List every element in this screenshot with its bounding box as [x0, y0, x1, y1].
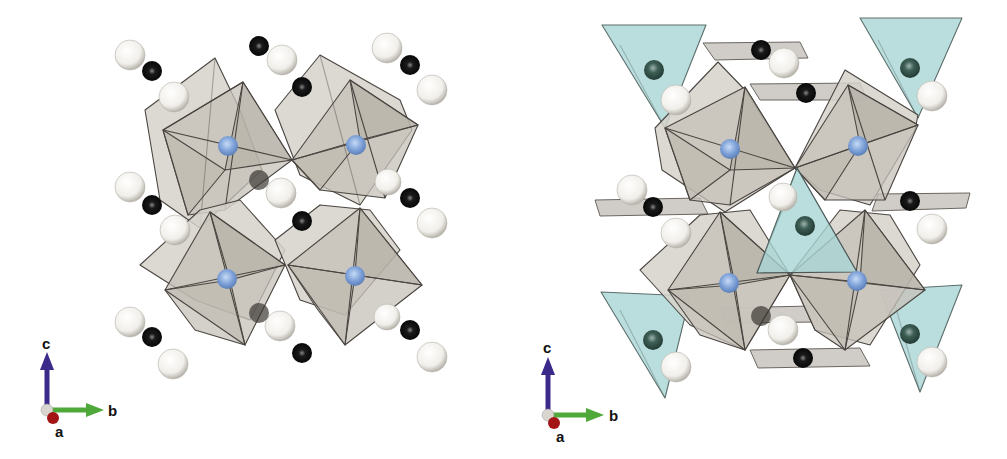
white-atom [917, 214, 947, 244]
black-atom [292, 343, 312, 363]
white-atom [267, 45, 297, 75]
blue-atom [719, 273, 739, 293]
white-atom [417, 342, 447, 372]
black-atom [751, 40, 771, 60]
white-atom [160, 215, 190, 245]
blue-atom [720, 139, 740, 159]
black-atom [292, 211, 312, 231]
b-axis-label: b [609, 407, 618, 424]
white-atom [917, 81, 947, 111]
b-axis-arrowhead [586, 408, 604, 422]
white-atom [617, 175, 647, 205]
white-atom [661, 85, 691, 115]
white-atom [265, 311, 295, 341]
white-atom [417, 75, 447, 105]
white-atoms [115, 33, 447, 379]
black-atom-hidden [249, 170, 269, 190]
white-atom [661, 218, 691, 248]
black-atom [400, 188, 420, 208]
c-axis-label: c [543, 339, 551, 356]
dark-green-atom [643, 330, 663, 350]
white-atom [374, 304, 400, 330]
blue-atom [217, 269, 237, 289]
white-atom [158, 349, 188, 379]
white-atom [115, 307, 145, 337]
c-axis-arrowhead [541, 357, 555, 375]
dark-green-atom [644, 60, 664, 80]
c-axis-label: c [42, 335, 50, 352]
axis-indicator-right: c b a [541, 339, 618, 445]
b-axis-arrowhead [86, 403, 104, 417]
a-axis-label: a [55, 423, 64, 440]
white-atom [372, 33, 402, 63]
black-atom [400, 55, 420, 75]
white-atom [115, 40, 145, 70]
white-atom [159, 82, 189, 112]
black-atom [643, 197, 663, 217]
black-atom [142, 327, 162, 347]
b-axis-label: b [108, 402, 117, 419]
black-atom [142, 195, 162, 215]
blue-atom [848, 136, 868, 156]
c-axis-arrowhead [40, 352, 54, 370]
black-atom [900, 191, 920, 211]
white-atom [375, 169, 401, 195]
blue-atom [847, 271, 867, 291]
dark-green-atom [900, 324, 920, 344]
structure-panel-right: c b a [500, 0, 1007, 459]
octahedron-bottom-left [140, 200, 285, 345]
white-atom [768, 315, 798, 345]
blue-atom [346, 135, 366, 155]
black-atom [249, 36, 269, 56]
white-atom [917, 347, 947, 377]
blue-atom [218, 136, 238, 156]
black-atom [793, 348, 813, 368]
black-atom-hidden [249, 303, 269, 323]
black-atom-hidden [751, 306, 771, 326]
right-structure-diagram: c b a [500, 0, 1007, 459]
white-atom [115, 172, 145, 202]
white-atom [417, 208, 447, 238]
axis-indicator-left: c b a [40, 335, 117, 440]
dark-green-atom [900, 58, 920, 78]
black-atom [400, 320, 420, 340]
left-structure-diagram: c b a [0, 0, 500, 459]
white-atom [266, 178, 296, 208]
black-atom [142, 61, 162, 81]
structure-panel-left: c b a [0, 0, 500, 459]
blue-atom [345, 266, 365, 286]
white-atom [769, 48, 799, 78]
a-axis-label: a [556, 428, 565, 445]
black-atom [292, 77, 312, 97]
black-atom [796, 83, 816, 103]
white-atom [769, 183, 797, 211]
white-atom [661, 352, 691, 382]
dark-green-atom [795, 216, 815, 236]
